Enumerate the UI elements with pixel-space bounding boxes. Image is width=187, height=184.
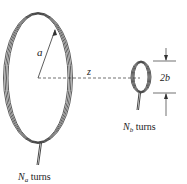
dimension-arrow-top <box>164 55 168 61</box>
small-coil-turns-label: Nb turns <box>122 121 156 134</box>
coupled-coils-diagram: a z 2b Nb turns Na turns <box>0 0 187 184</box>
small-coil <box>131 61 151 93</box>
small-coil-lead-wire <box>137 93 141 110</box>
large-coil-turns-label: Na turns <box>17 171 51 184</box>
diameter-label: 2b <box>160 72 170 83</box>
radius-label: a <box>37 46 43 58</box>
dimension-arrow-bottom <box>164 93 168 99</box>
large-coil-lead-wire <box>37 143 42 165</box>
distance-label: z <box>86 66 91 77</box>
